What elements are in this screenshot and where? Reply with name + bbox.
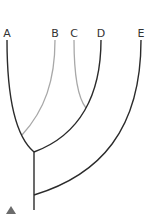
taxon-label-e: E <box>138 28 145 40</box>
branch-e <box>34 40 141 195</box>
taxon-label-a: A <box>3 28 11 40</box>
branch-c <box>74 40 86 108</box>
branch-b <box>22 40 55 135</box>
cladogram <box>0 0 160 223</box>
taxon-label-b: B <box>51 28 59 40</box>
branch-a <box>7 40 34 152</box>
taxon-label-d: D <box>97 28 105 40</box>
taxon-label-c: C <box>70 28 78 40</box>
branch-d <box>34 40 101 152</box>
triangle-marker-icon <box>6 206 16 214</box>
